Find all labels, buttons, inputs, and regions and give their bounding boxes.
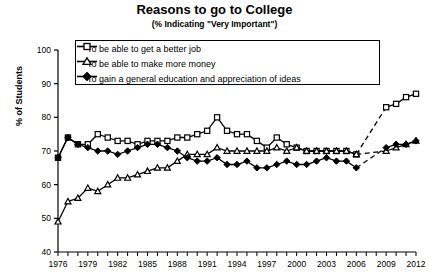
x-tick-label: 1997 bbox=[257, 259, 276, 269]
chart-container: Reasons to go to College (% Indicating "… bbox=[0, 0, 429, 280]
data-point bbox=[114, 151, 120, 157]
data-point bbox=[224, 148, 230, 153]
data-point bbox=[313, 158, 319, 164]
data-point bbox=[65, 198, 71, 203]
x-tick-label: 1982 bbox=[108, 259, 127, 269]
data-point bbox=[154, 165, 160, 170]
data-point bbox=[224, 128, 229, 133]
y-tick-label: 50 bbox=[42, 213, 52, 223]
data-point bbox=[204, 151, 210, 156]
data-point bbox=[195, 132, 200, 137]
data-point bbox=[244, 148, 250, 153]
open-triangle-marker-icon bbox=[76, 56, 98, 67]
y-tick-label: 40 bbox=[42, 247, 52, 257]
data-point bbox=[403, 95, 408, 100]
legend-item-general-education: To gain a general education and apprecia… bbox=[76, 71, 379, 86]
data-point bbox=[333, 158, 339, 164]
legend-label-more-money: To be able to make more money bbox=[87, 59, 216, 69]
data-point bbox=[145, 168, 151, 173]
x-tick-label: 1991 bbox=[198, 259, 217, 269]
data-point bbox=[234, 132, 239, 137]
data-point bbox=[215, 115, 220, 120]
y-tick-label: 60 bbox=[42, 180, 52, 190]
open-square-marker-icon bbox=[76, 41, 98, 52]
series-line bbox=[386, 94, 416, 107]
x-tick-label: 1988 bbox=[168, 259, 187, 269]
data-point bbox=[164, 144, 170, 150]
data-point bbox=[124, 148, 130, 154]
data-point bbox=[165, 138, 170, 143]
series-line-gap bbox=[356, 151, 386, 154]
data-point bbox=[254, 138, 259, 143]
x-tick-label: 1976 bbox=[49, 259, 68, 269]
data-point bbox=[185, 135, 190, 140]
data-point bbox=[244, 132, 249, 137]
data-point bbox=[205, 128, 210, 133]
data-point bbox=[164, 165, 170, 170]
data-point bbox=[293, 161, 299, 167]
data-point bbox=[174, 158, 180, 163]
series-line-gap bbox=[356, 107, 386, 154]
data-point bbox=[303, 161, 309, 167]
x-tick-label: 2006 bbox=[347, 259, 366, 269]
data-point bbox=[194, 151, 200, 156]
x-tick-label: 2012 bbox=[407, 259, 426, 269]
filled-diamond-marker-icon bbox=[76, 71, 98, 82]
x-tick-label: 1985 bbox=[138, 259, 157, 269]
data-point bbox=[125, 138, 130, 143]
data-point bbox=[254, 148, 260, 153]
data-point bbox=[95, 132, 100, 137]
x-tick-label: 1994 bbox=[228, 259, 247, 269]
y-tick-label: 70 bbox=[42, 146, 52, 156]
y-tick-label: 80 bbox=[42, 112, 52, 122]
data-point bbox=[194, 158, 200, 164]
data-point bbox=[95, 188, 101, 193]
data-point bbox=[234, 148, 240, 153]
data-point bbox=[115, 138, 120, 143]
data-point bbox=[284, 158, 290, 164]
y-tick-label: 90 bbox=[42, 79, 52, 89]
legend-label-general-education: To gain a general education and apprecia… bbox=[87, 74, 301, 84]
data-point bbox=[105, 135, 110, 140]
data-point bbox=[115, 175, 121, 180]
data-point bbox=[284, 148, 290, 153]
data-point bbox=[264, 165, 270, 171]
data-point bbox=[135, 171, 141, 176]
data-point bbox=[413, 91, 418, 96]
legend-label-better-job: To be able to get a better job bbox=[87, 44, 201, 54]
data-point bbox=[105, 182, 111, 187]
data-point bbox=[274, 135, 279, 140]
data-point bbox=[234, 161, 240, 167]
legend-item-more-money: To be able to make more money bbox=[76, 56, 379, 71]
data-point bbox=[105, 148, 111, 154]
data-point bbox=[204, 158, 210, 164]
x-tick-label: 2009 bbox=[377, 259, 396, 269]
data-point bbox=[85, 185, 91, 190]
data-point bbox=[55, 219, 61, 224]
data-point bbox=[95, 148, 101, 154]
data-point bbox=[214, 145, 220, 150]
y-tick-label: 100 bbox=[37, 45, 51, 55]
data-point bbox=[394, 101, 399, 106]
data-point bbox=[125, 175, 131, 180]
data-point bbox=[284, 142, 289, 147]
legend-item-better-job: To be able to get a better job bbox=[76, 41, 379, 56]
data-point bbox=[384, 105, 389, 110]
x-tick-label: 1979 bbox=[78, 259, 97, 269]
data-point bbox=[274, 161, 280, 167]
chart-legend: To be able to get a better job To be abl… bbox=[75, 40, 380, 85]
data-point bbox=[274, 145, 280, 150]
data-point bbox=[175, 135, 180, 140]
x-tick-label: 2000 bbox=[287, 259, 306, 269]
x-tick-label: 2003 bbox=[317, 259, 336, 269]
data-point bbox=[323, 155, 329, 161]
series-line-gap bbox=[356, 148, 386, 168]
